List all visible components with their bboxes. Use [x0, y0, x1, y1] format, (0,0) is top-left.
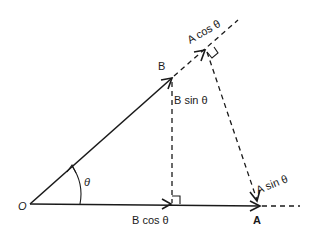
label-b: B — [158, 60, 165, 72]
vector-diagram: O A B θ B sin θ B cos θ A cos θ A sin θ — [0, 0, 315, 239]
vector-b-line — [30, 78, 172, 204]
label-a-sin: A sin θ — [254, 172, 289, 195]
b-cos-arrowhead — [162, 199, 171, 209]
a-cos-arrowhead — [194, 50, 205, 61]
a-perpendicular — [207, 52, 257, 200]
label-o: O — [18, 200, 27, 212]
label-a-cos: A cos θ — [185, 17, 222, 45]
right-angle-marker-bottom — [172, 196, 180, 204]
label-b-sin: B sin θ — [174, 94, 208, 106]
vector-a-line — [30, 204, 260, 206]
label-b-cos: B cos θ — [132, 214, 169, 226]
label-theta: θ — [84, 176, 90, 188]
label-a: A — [253, 214, 261, 226]
theta-arc — [72, 166, 81, 204]
